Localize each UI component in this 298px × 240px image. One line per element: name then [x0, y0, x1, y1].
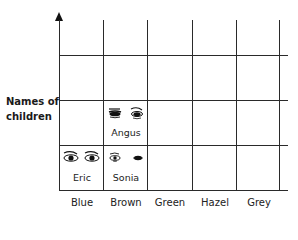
child-name-sonia: Sonia	[104, 172, 148, 183]
x-label-blue: Blue	[60, 197, 104, 208]
grid-vline	[236, 20, 237, 191]
grid-hline	[59, 55, 288, 56]
small-eyes-icon	[104, 150, 148, 164]
y-axis-label: Names of children	[6, 95, 59, 123]
child-name-eric: Eric	[60, 172, 104, 183]
grid-vline	[279, 20, 280, 191]
x-label-green: Green	[148, 197, 192, 208]
grid-hline	[59, 100, 288, 101]
x-axis-line	[59, 190, 288, 191]
y-axis-label-line1: Names of	[6, 95, 59, 108]
x-label-hazel: Hazel	[193, 197, 237, 208]
grid-hline	[59, 145, 288, 146]
child-name-angus: Angus	[104, 127, 148, 138]
x-label-grey: Grey	[237, 197, 281, 208]
y-axis-label-line2: children	[6, 110, 59, 123]
open-eyes-icon	[60, 150, 104, 164]
y-axis-line	[59, 20, 60, 191]
heavy-lidded-eyes-icon	[104, 106, 148, 120]
grid-vline	[192, 20, 193, 191]
x-label-brown: Brown	[104, 197, 148, 208]
